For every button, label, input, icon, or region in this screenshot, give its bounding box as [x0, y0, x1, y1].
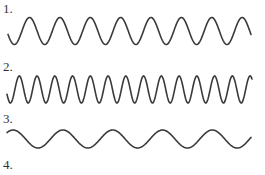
wave-3	[7, 130, 251, 148]
wave-2	[7, 76, 252, 103]
wave-1	[8, 18, 251, 45]
waves-canvas	[0, 0, 265, 175]
